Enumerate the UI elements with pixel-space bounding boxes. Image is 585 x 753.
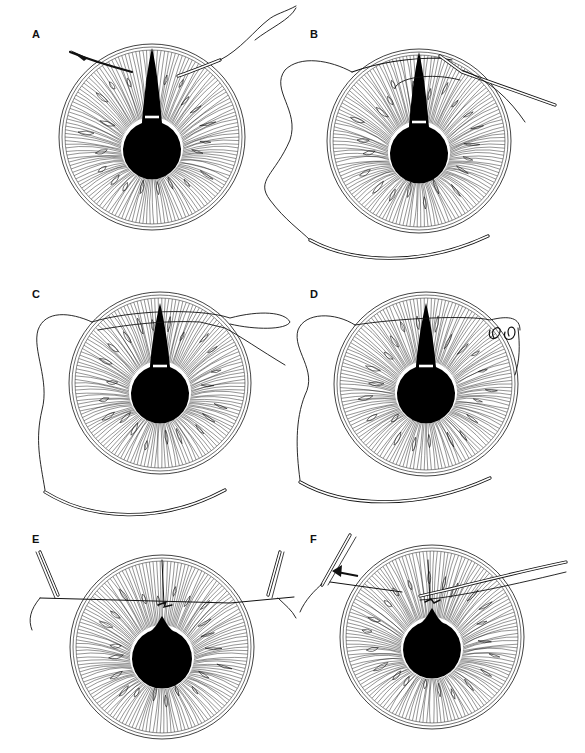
suture-thread-b-tail	[255, 8, 296, 40]
curved-needle-b-highlight	[310, 236, 488, 258]
iris-defect-gap-bar	[153, 365, 167, 368]
forceps-left-e-highlight	[40, 552, 58, 595]
iris-suture-figure: A B C D E F	[0, 0, 585, 753]
suture-thread-a	[220, 6, 296, 60]
needle-point	[70, 50, 88, 61]
iris-defect-gap-bar	[419, 365, 433, 368]
suture-tail-f	[300, 584, 322, 612]
panel-label-d: D	[310, 288, 318, 300]
forceps-f-highlight	[322, 535, 350, 585]
forceps-jaw-f	[328, 537, 356, 585]
iris-defect-gap-bar	[412, 121, 426, 124]
iris-panel-f	[340, 545, 524, 729]
knot-loop-2	[505, 327, 515, 339]
suture-tail-left-e	[30, 598, 40, 630]
panel-label-c: C	[32, 288, 40, 300]
iris-panel-e	[70, 555, 254, 739]
panel-label-f: F	[310, 533, 317, 545]
suture-tail-right-e	[278, 598, 296, 618]
panel-label-a: A	[32, 28, 40, 40]
figure-artwork	[0, 0, 585, 753]
iris-defect-gap-bar	[145, 116, 159, 119]
panel-label-b: B	[310, 28, 318, 40]
iris-panel-a	[59, 44, 245, 230]
iris-panel-c	[69, 292, 251, 474]
panel-label-e: E	[32, 533, 39, 545]
curved-needle-c-highlight	[45, 490, 225, 515]
forceps-left-jaw-e	[36, 552, 55, 598]
curved-needle-d-highlight	[300, 478, 490, 502]
